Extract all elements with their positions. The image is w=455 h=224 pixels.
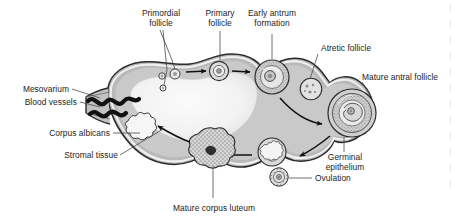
label-mature-corpus-luteum: Mature corpus luteum — [155, 203, 273, 213]
label-early-antrum-formation: Early antrum formation — [232, 8, 312, 28]
label-blood-vessels: Blood vessels — [3, 97, 77, 107]
label-ovulation: Ovulation — [315, 173, 351, 183]
label-germinal-epithelium: Germinal epithelium — [312, 152, 378, 172]
ovary-diagram-figure: Primordial follicle Primary follicle Ear… — [0, 0, 455, 224]
label-germinal-epithelium-line2: epithelium — [312, 162, 378, 172]
label-atretic-follicle: Atretic follicle — [321, 43, 371, 53]
leader-primordial-b — [163, 30, 167, 85]
leader-mature-antral — [362, 82, 372, 98]
label-early-antrum-line1: Early antrum — [232, 8, 312, 18]
leader-blood-vessels — [80, 102, 100, 107]
label-mesovarium: Mesovarium — [3, 84, 69, 94]
label-stromal-tissue: Stromal tissue — [40, 150, 118, 160]
leader-atretic — [310, 54, 318, 79]
label-early-antrum-line2: formation — [232, 18, 312, 28]
leader-lines — [0, 0, 455, 224]
label-germinal-epithelium-line1: Germinal — [312, 152, 378, 162]
leader-primordial-a — [160, 30, 175, 69]
label-corpus-albicans: Corpus albicans — [22, 128, 110, 138]
label-mature-antral-follicle: Mature antral follicle — [362, 72, 438, 82]
